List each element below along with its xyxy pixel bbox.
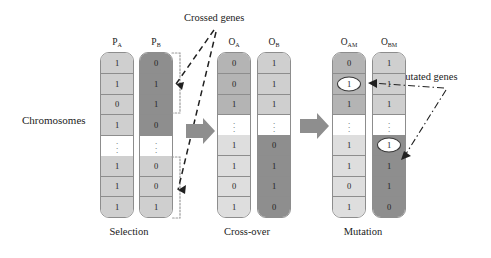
gene-cell: 1: [258, 53, 290, 74]
column-label-offspring-a-mutated-sub: AM: [348, 42, 358, 48]
gene-cell: 1: [373, 156, 405, 177]
gene-cell: 1: [140, 197, 172, 217]
column-label-offspring-a-sub: A: [235, 42, 239, 48]
gene-cell: 0: [258, 135, 290, 156]
column-label-offspring-a: OA: [214, 37, 254, 47]
gene-cell: 0: [218, 74, 250, 95]
arrow-crossover-to-mutation-icon: [300, 113, 329, 139]
gene-value: 0: [154, 58, 158, 68]
arrow-selection-to-crossover-icon: [186, 118, 215, 144]
stage-caption-selection: Selection: [74, 226, 184, 237]
gene-cell-ellipsis: ...: [258, 115, 290, 135]
crossed-genes-arrowhead-upper: [176, 82, 184, 90]
gene-cell: 1: [258, 177, 290, 198]
gene-value: 1: [272, 99, 276, 109]
gene-value: 1: [347, 161, 351, 171]
ellipsis-icon: ...: [233, 115, 235, 135]
column-label-parent-a: PA: [97, 37, 137, 47]
gene-cell: 1: [101, 177, 133, 198]
gene-value: 1: [115, 161, 119, 171]
gene-value: 1: [347, 79, 351, 89]
crossed-genes-bracket-upper: [172, 53, 180, 113]
column-label-offspring-b-mutated-base: O: [381, 37, 388, 47]
gene-value: 1: [154, 99, 158, 109]
gene-cell: 1: [101, 53, 133, 74]
gene-cell: 0: [140, 115, 172, 136]
gene-cell-ellipsis: ...: [140, 136, 172, 156]
gene-cell-ellipsis: ...: [373, 115, 405, 135]
column-label-parent-b-base: P: [151, 37, 156, 47]
gene-value: 0: [347, 181, 351, 191]
mutated-genes-leader-lower: [404, 90, 446, 157]
gene-cell-ellipsis: ...: [101, 136, 133, 156]
gene-value: 1: [232, 140, 236, 150]
gene-value: 0: [115, 99, 119, 109]
chromosome-offspring-b: 111...0110: [257, 52, 291, 218]
gene-value: 1: [387, 161, 391, 171]
gene-value: 0: [232, 58, 236, 68]
gene-value: 1: [272, 161, 276, 171]
gene-value: 1: [115, 58, 119, 68]
gene-cell: 1: [218, 95, 250, 116]
gene-value: 1: [115, 120, 119, 130]
stage-caption-mutation: Mutation: [308, 226, 418, 237]
gene-value: 1: [387, 140, 391, 150]
gene-cell: 1: [140, 74, 172, 95]
gene-value: 1: [387, 181, 391, 191]
gene-cell: 1: [333, 156, 365, 177]
gene-cell: 0: [218, 177, 250, 198]
crossed-genes-leader-upper: [176, 30, 214, 84]
crossed-genes-annotation: Crossed genes: [184, 12, 244, 23]
gene-cell: 1: [140, 95, 172, 116]
gene-cell: 1: [373, 95, 405, 116]
gene-cell: 1: [101, 197, 133, 217]
gene-cell: 1: [258, 74, 290, 95]
gene-cell: 0: [101, 95, 133, 116]
gene-cell: 1: [333, 135, 365, 156]
gene-cell: 1: [101, 74, 133, 95]
gene-cell: 0: [333, 177, 365, 198]
column-label-offspring-a-mutated: OAM: [329, 37, 369, 47]
chromosome-offspring-a: 001...1101: [217, 52, 251, 218]
gene-cell: 1: [218, 156, 250, 177]
gene-value: 1: [272, 79, 276, 89]
gene-cell: 1: [333, 197, 365, 217]
gene-value: 1: [272, 58, 276, 68]
stage-caption-cross-over: Cross-over: [192, 226, 302, 237]
gene-cell: 1: [101, 115, 133, 136]
gene-value: 0: [154, 120, 158, 130]
gene-value: 1: [347, 99, 351, 109]
column-label-offspring-b: OB: [254, 37, 294, 47]
gene-value: 1: [272, 181, 276, 191]
chromosome-parent-a: 1101...111: [100, 52, 134, 218]
crossed-genes-arrowhead-lower: [178, 185, 186, 194]
chromosome-offspring-b-mutated: 111...1110: [372, 52, 406, 218]
gene-value: 1: [387, 58, 391, 68]
gene-value: 0: [347, 58, 351, 68]
gene-value: 1: [115, 181, 119, 191]
gene-cell-mutated: 1: [333, 74, 365, 95]
chromosomes-label: Chromosomes: [22, 114, 86, 126]
gene-value: 1: [232, 202, 236, 212]
ellipsis-icon: ...: [155, 136, 157, 156]
column-label-offspring-b-mutated-sub: BM: [388, 42, 397, 48]
gene-cell: 1: [218, 135, 250, 156]
gene-cell: 0: [258, 197, 290, 217]
column-label-offspring-a-mutated-base: O: [341, 37, 348, 47]
gene-value: 1: [232, 161, 236, 171]
gene-cell: 0: [333, 53, 365, 74]
column-label-parent-a-sub: A: [117, 42, 121, 48]
gene-value: 0: [272, 140, 276, 150]
gene-value: 1: [347, 140, 351, 150]
crossed-genes-leader-lower: [178, 32, 216, 190]
gene-value: 0: [154, 181, 158, 191]
gene-cell: 1: [373, 53, 405, 74]
column-label-offspring-b-sub: B: [275, 42, 279, 48]
gene-value: 0: [232, 181, 236, 191]
gene-cell: 1: [218, 197, 250, 217]
gene-cell: 1: [258, 95, 290, 116]
gene-cell-mutated: 1: [373, 135, 405, 156]
column-label-parent-b: PB: [136, 37, 176, 47]
gene-value: 0: [232, 79, 236, 89]
gene-cell: 1: [101, 156, 133, 177]
